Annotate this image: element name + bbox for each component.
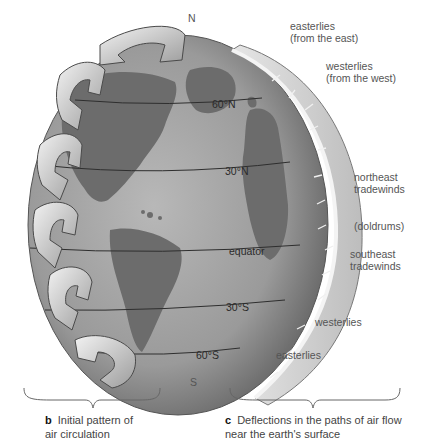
wind-label-easterlies-south: easterlies xyxy=(276,349,321,361)
wind-label-northeast-tradewinds: northeast tradewinds xyxy=(354,171,405,195)
wind-label-southeast-tradewinds: southeast tradewinds xyxy=(350,248,401,272)
wind-label-doldrums: (doldrums) xyxy=(354,220,404,232)
wind-label-westerlies-south: westerlies xyxy=(315,316,362,328)
north-pole-label: N xyxy=(188,12,196,24)
latitude-label-equator: equator xyxy=(229,245,265,257)
latitude-label-30s: 30°S xyxy=(226,301,249,313)
atmospheric-circulation-diagram: N S 60°N 30°N equator 30°S 60°S easterli… xyxy=(0,0,422,441)
wind-label-polar-easterlies: easterlies (from the east) xyxy=(290,20,358,44)
latitude-label-60n: 60°N xyxy=(212,98,235,110)
caption-b: bInitial pattern of air circulation xyxy=(45,413,133,441)
south-pole-label: S xyxy=(190,376,197,388)
latitude-label-30n: 30°N xyxy=(225,165,248,177)
caption-c: cDeflections in the paths of air flow ne… xyxy=(225,413,402,441)
latitude-label-60s: 60°S xyxy=(196,349,219,361)
wind-label-westerlies-north: westerlies (from the west) xyxy=(326,60,396,84)
